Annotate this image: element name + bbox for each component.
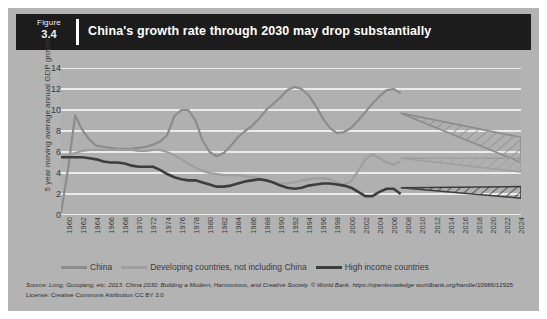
- series-line-1: [61, 150, 401, 185]
- chart-area: 5 year moving average annual GDP growth …: [16, 54, 531, 274]
- x-tick-1964: 1964: [93, 217, 102, 234]
- title-divider: [76, 19, 79, 45]
- legend-swatch-2: [316, 266, 342, 269]
- series-line-2: [61, 157, 401, 196]
- x-tick-1962: 1962: [79, 217, 88, 234]
- y-axis-ticks: 02468101214: [30, 68, 61, 218]
- plot-canvas: [61, 68, 521, 215]
- legend-label-1: Developing countries, not including Chin…: [150, 262, 306, 272]
- x-tick-1960: 1960: [65, 217, 74, 234]
- y-tick-8: 8: [39, 127, 61, 136]
- legend-item-0[interactable]: China: [61, 262, 112, 272]
- x-tick-2010: 2010: [418, 217, 427, 234]
- figure-title-bar: Figure 3.4 China's growth rate through 2…: [16, 14, 531, 50]
- y-tick-2: 2: [39, 190, 61, 199]
- x-tick-2024: 2024: [517, 217, 526, 234]
- legend-item-1[interactable]: Developing countries, not including Chin…: [121, 262, 306, 272]
- projection-bands: [401, 113, 521, 198]
- x-tick-2014: 2014: [447, 217, 456, 234]
- legend-item-2[interactable]: High income countries: [316, 262, 429, 272]
- x-tick-1968: 1968: [121, 217, 130, 234]
- x-axis-ticks: 1960196219641966196819701972197419761978…: [61, 217, 521, 263]
- figure-panel: Figure 3.4 China's growth rate through 2…: [8, 8, 539, 311]
- y-tick-6: 6: [39, 148, 61, 157]
- y-tick-12: 12: [39, 85, 61, 94]
- x-tick-1990: 1990: [277, 217, 286, 234]
- x-tick-2008: 2008: [404, 217, 413, 234]
- projection-band-1: [401, 158, 521, 172]
- source-line-1: Source: Long, Guoqiang, etc. 2013. China…: [26, 281, 414, 288]
- source-note: Source: Long, Guoqiang, etc. 2013. China…: [26, 280, 526, 299]
- x-tick-1966: 1966: [107, 217, 116, 234]
- x-tick-1994: 1994: [305, 217, 314, 234]
- x-tick-1996: 1996: [319, 217, 328, 234]
- x-tick-2020: 2020: [489, 217, 498, 234]
- x-tick-1984: 1984: [234, 217, 243, 234]
- x-tick-2018: 2018: [475, 217, 484, 234]
- x-tick-1982: 1982: [220, 217, 229, 234]
- x-tick-2012: 2012: [433, 217, 442, 234]
- x-tick-2006: 2006: [390, 217, 399, 234]
- x-tick-1972: 1972: [149, 217, 158, 234]
- chart-legend: ChinaDeveloping countries, not including…: [61, 260, 531, 274]
- x-tick-1988: 1988: [263, 217, 272, 234]
- y-tick-14: 14: [39, 64, 61, 73]
- x-tick-2004: 2004: [376, 217, 385, 234]
- x-tick-1970: 1970: [135, 217, 144, 234]
- legend-label-0: China: [90, 262, 112, 272]
- projection-band-0: [401, 113, 521, 162]
- legend-label-2: High income countries: [345, 262, 429, 272]
- x-tick-1992: 1992: [291, 217, 300, 234]
- x-tick-2022: 2022: [503, 217, 512, 234]
- x-tick-1998: 1998: [333, 217, 342, 234]
- y-tick-4: 4: [39, 169, 61, 178]
- x-tick-1978: 1978: [192, 217, 201, 234]
- x-tick-2000: 2000: [348, 217, 357, 234]
- x-tick-1986: 1986: [249, 217, 258, 234]
- legend-swatch-0: [61, 266, 87, 269]
- figure-word: Figure: [26, 18, 72, 28]
- chart-svg: [61, 68, 521, 215]
- y-tick-0: 0: [39, 211, 61, 220]
- x-tick-1980: 1980: [206, 217, 215, 234]
- x-tick-1974: 1974: [164, 217, 173, 234]
- x-tick-2016: 2016: [461, 217, 470, 234]
- projection-band-2: [401, 187, 521, 199]
- x-tick-1976: 1976: [178, 217, 187, 234]
- legend-swatch-1: [121, 266, 147, 269]
- x-tick-2002: 2002: [362, 217, 371, 234]
- page-title: China's growth rate through 2030 may dro…: [88, 24, 431, 38]
- y-tick-10: 10: [39, 106, 61, 115]
